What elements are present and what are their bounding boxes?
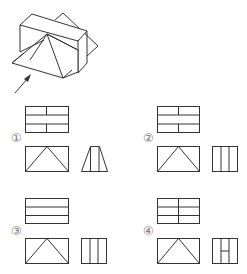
- figure-canvas: [0, 0, 247, 274]
- option-3-drawings: [26, 199, 107, 264]
- option-4-drawings: [158, 199, 238, 264]
- option-2-label[interactable]: ②: [143, 132, 154, 144]
- option-1-label[interactable]: ①: [11, 132, 22, 144]
- isometric-object: [12, 13, 98, 78]
- option-3-label[interactable]: ③: [11, 225, 22, 237]
- option-1-drawings: [26, 107, 108, 172]
- view-arrow: [15, 74, 31, 93]
- option-4-label[interactable]: ④: [143, 225, 154, 237]
- option-2-drawings: [158, 107, 238, 172]
